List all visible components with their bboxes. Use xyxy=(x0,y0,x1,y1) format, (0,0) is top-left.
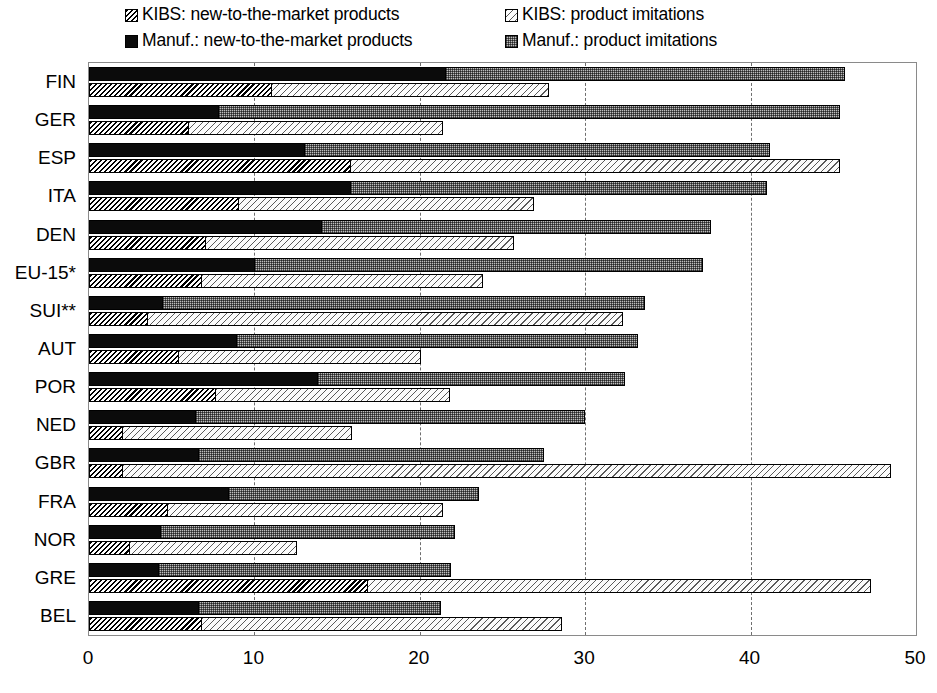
bar-group xyxy=(89,448,916,478)
bar-segment-kibs-imitations xyxy=(148,313,622,325)
y-axis-label-sui: SUI** xyxy=(30,301,76,320)
bar-segment-kibs-imitations xyxy=(202,618,561,630)
bar-segment-kibs-imitations xyxy=(189,122,442,134)
bar-group xyxy=(89,563,916,593)
bar-segment-kibs-new xyxy=(90,275,202,287)
bar-segment-manuf-new xyxy=(90,259,255,271)
bar-kibs xyxy=(89,312,623,326)
bar-segment-kibs-new xyxy=(90,84,272,96)
bar-segment-kibs-new xyxy=(90,465,123,477)
bar-segment-manuf-imitations xyxy=(161,526,453,538)
bar-segment-manuf-new xyxy=(90,68,446,80)
bar-manufacturing xyxy=(89,105,840,119)
bar-segment-manuf-new xyxy=(90,449,199,461)
bar-kibs xyxy=(89,236,514,250)
bar-manufacturing xyxy=(89,67,845,81)
bar-segment-kibs-new xyxy=(90,542,130,554)
legend-item-kibs-new: KIBS: new-to-the-market products xyxy=(125,6,399,24)
bar-segment-kibs-imitations xyxy=(179,351,420,363)
bar-segment-manuf-new xyxy=(90,297,163,309)
chart-legend: KIBS: new-to-the-market products KIBS: p… xyxy=(0,0,937,56)
bar-group xyxy=(89,220,916,250)
legend-row-1: KIBS: new-to-the-market products xyxy=(125,3,399,27)
bar-kibs xyxy=(89,159,840,173)
bar-group xyxy=(89,105,916,135)
bar-segment-kibs-imitations xyxy=(130,542,297,554)
bar-segment-manuf-imitations xyxy=(219,106,839,118)
x-tick-label-50: 50 xyxy=(904,648,925,667)
bar-segment-kibs-new xyxy=(90,198,239,210)
bar-segment-kibs-new xyxy=(90,580,368,592)
legend-label-manuf-imitations: Manuf.: product imitations xyxy=(522,32,717,50)
legend-label-kibs-new: KIBS: new-to-the-market products xyxy=(142,6,399,24)
manuf-new-swatch-icon xyxy=(125,35,138,48)
bar-segment-manuf-imitations xyxy=(229,488,478,500)
kibs-imitations-swatch-icon xyxy=(505,9,518,22)
bar-segment-manuf-imitations xyxy=(446,68,844,80)
bar-group xyxy=(89,334,916,364)
x-tick-label-40: 40 xyxy=(739,648,760,667)
x-tick-label-30: 30 xyxy=(574,648,595,667)
bar-manufacturing xyxy=(89,601,441,615)
bar-manufacturing xyxy=(89,181,767,195)
bar-manufacturing xyxy=(89,258,703,272)
bar-segment-manuf-new xyxy=(90,335,237,347)
bar-kibs xyxy=(89,503,443,517)
bar-segment-kibs-imitations xyxy=(216,389,449,401)
legend-item-manuf-new: Manuf.: new-to-the-market products xyxy=(125,32,412,50)
kibs-new-swatch-icon xyxy=(125,9,138,22)
legend-item-kibs-imitations: KIBS: product imitations xyxy=(505,6,704,24)
y-axis-label-fra: FRA xyxy=(38,492,76,511)
bar-segment-manuf-imitations xyxy=(237,335,637,347)
bar-manufacturing xyxy=(89,372,625,386)
bar-group xyxy=(89,181,916,211)
bar-segment-kibs-imitations xyxy=(206,237,513,249)
bar-manufacturing xyxy=(89,448,544,462)
bar-manufacturing xyxy=(89,220,711,234)
bar-segment-manuf-new xyxy=(90,106,219,118)
plot-area xyxy=(88,62,917,636)
chart-root: KIBS: new-to-the-market products KIBS: p… xyxy=(0,0,937,693)
bar-manufacturing xyxy=(89,143,770,157)
bar-segment-manuf-imitations xyxy=(351,182,766,194)
bar-segment-kibs-imitations xyxy=(168,504,442,516)
y-axis-label-eu15: EU-15* xyxy=(15,263,76,282)
y-axis-label-ita: ITA xyxy=(48,186,76,205)
legend-row-1-right: KIBS: product imitations xyxy=(505,3,704,27)
bar-group xyxy=(89,487,916,517)
bar-manufacturing xyxy=(89,296,645,310)
bar-segment-kibs-imitations xyxy=(239,198,533,210)
legend-row-2: Manuf.: new-to-the-market products xyxy=(125,29,412,53)
y-axis-label-esp: ESP xyxy=(38,148,76,167)
bar-segment-kibs-new xyxy=(90,618,202,630)
bar-group xyxy=(89,525,916,555)
bar-manufacturing xyxy=(89,525,455,539)
bar-group xyxy=(89,601,916,631)
bar-segment-kibs-new xyxy=(90,122,189,134)
bar-segment-manuf-new xyxy=(90,144,305,156)
bar-segment-manuf-new xyxy=(90,182,351,194)
bar-segment-kibs-new xyxy=(90,237,206,249)
bar-manufacturing xyxy=(89,334,638,348)
bar-segment-manuf-imitations xyxy=(322,221,710,233)
legend-item-manuf-imitations: Manuf.: product imitations xyxy=(505,32,717,50)
bar-segment-manuf-new xyxy=(90,526,161,538)
bar-kibs xyxy=(89,350,421,364)
bar-kibs xyxy=(89,197,534,211)
legend-label-kibs-imitations: KIBS: product imitations xyxy=(522,6,704,24)
y-axis-label-den: DEN xyxy=(36,225,76,244)
bar-segment-manuf-imitations xyxy=(199,449,543,461)
bar-segment-manuf-imitations xyxy=(159,564,450,576)
legend-label-manuf-new: Manuf.: new-to-the-market products xyxy=(142,32,412,50)
y-axis-label-aut: AUT xyxy=(38,339,76,358)
bar-manufacturing xyxy=(89,410,585,424)
legend-row-2-right: Manuf.: product imitations xyxy=(505,29,717,53)
bar-segment-manuf-new xyxy=(90,488,229,500)
bar-segment-kibs-new xyxy=(90,504,168,516)
bar-segment-manuf-new xyxy=(90,411,196,423)
x-tick-label-10: 10 xyxy=(243,648,264,667)
x-axis-labels: 01020304050 xyxy=(0,640,937,680)
bar-segment-kibs-new xyxy=(90,351,179,363)
bar-segment-manuf-imitations xyxy=(199,602,440,614)
bar-segment-kibs-new xyxy=(90,160,351,172)
